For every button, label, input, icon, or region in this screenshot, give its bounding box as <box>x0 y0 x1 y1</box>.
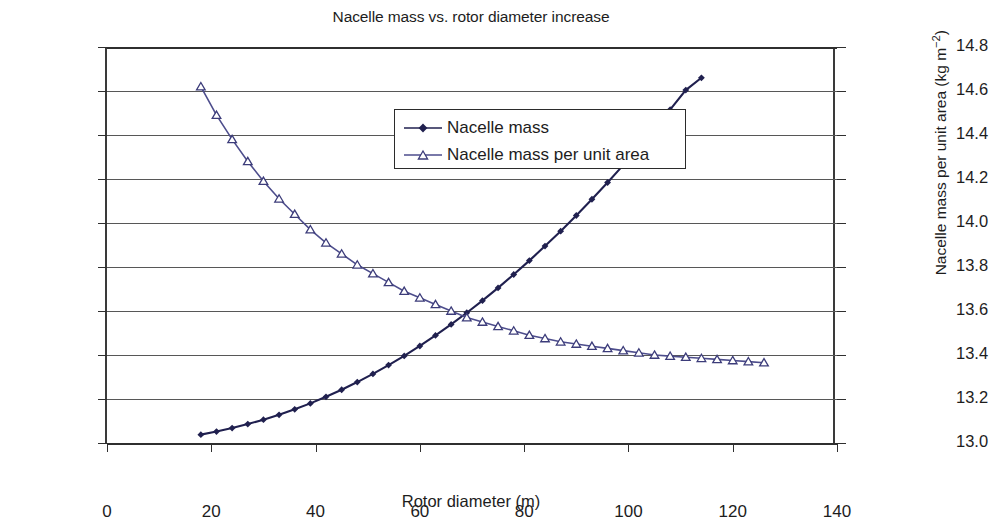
y-axis-right-tick-label: 13.0 <box>956 432 993 451</box>
legend: Nacelle mass Nacelle mass per unit area <box>394 109 686 169</box>
data-point-diamond <box>338 386 345 393</box>
y-axis-left-tick <box>98 399 107 400</box>
data-point-diamond <box>229 425 236 432</box>
x-axis-tick <box>211 443 212 452</box>
y-axis-right-tick-label: 14.6 <box>956 80 993 99</box>
x-axis-tick-label: 40 <box>286 502 346 522</box>
data-point-triangle <box>228 135 237 142</box>
page-title: Nacelle mass vs. rotor diameter increase <box>0 8 942 26</box>
y-axis-left-tick <box>98 311 107 312</box>
y-axis-left-tick <box>98 91 107 92</box>
y-axis-right-tick-label: 13.4 <box>956 344 993 363</box>
x-axis-tick <box>524 443 525 452</box>
y-axis-right-tick-label: 14.0 <box>956 212 993 231</box>
y-axis-right-title-text: Nacelle mass per unit area (kg m <box>932 48 949 275</box>
x-axis-tick-label: 20 <box>181 502 241 522</box>
y-axis-left-tick <box>98 179 107 180</box>
x-axis-tick <box>420 443 421 452</box>
y-axis-right-tick-label: 14.4 <box>956 124 993 143</box>
x-axis-tick-label: 60 <box>390 502 450 522</box>
y-axis-left-tick <box>98 443 107 444</box>
y-axis-right-tick <box>837 355 846 356</box>
y-axis-right-tick-label: 13.6 <box>956 300 993 319</box>
x-axis-tick <box>628 443 629 452</box>
legend-item[interactable]: Nacelle mass per unit area <box>395 141 685 168</box>
y-axis-right-title-exponent: −2 <box>930 35 942 48</box>
y-axis-left-tick <box>98 47 107 48</box>
y-axis-right-tick <box>837 135 846 136</box>
y-axis-right-tick-label: 13.2 <box>956 388 993 407</box>
y-axis-right-tick-label: 14.8 <box>956 36 993 55</box>
data-point-triangle <box>400 287 409 294</box>
x-axis-tick-label: 80 <box>494 502 554 522</box>
data-point-diamond <box>260 416 267 423</box>
data-point-diamond <box>307 400 314 407</box>
x-axis-tick <box>107 443 108 452</box>
x-axis-tick-label: 100 <box>598 502 658 522</box>
data-point-triangle <box>369 270 378 277</box>
y-axis-right-tick-label: 14.2 <box>956 168 993 187</box>
y-axis-right-tick <box>837 91 846 92</box>
x-axis-tick-label: 140 <box>807 502 867 522</box>
y-axis-right-tick <box>837 399 846 400</box>
data-point-diamond <box>323 393 330 400</box>
series-layer <box>107 47 837 443</box>
x-axis-tick <box>837 443 838 452</box>
y-axis-left-tick <box>98 355 107 356</box>
x-axis-tick <box>316 443 317 452</box>
data-point-diamond <box>244 421 251 428</box>
x-axis-tick <box>733 443 734 452</box>
y-axis-right-tick <box>837 47 846 48</box>
data-point-triangle <box>197 83 206 90</box>
y-axis-right-tick <box>837 223 846 224</box>
y-axis-right-tick-label: 13.8 <box>956 256 993 275</box>
data-point-diamond <box>213 428 220 435</box>
y-axis-left-tick <box>98 135 107 136</box>
x-axis-title: Rotor diameter (m) <box>0 492 942 511</box>
y-axis-left-tick <box>98 223 107 224</box>
data-point-triangle <box>384 278 393 285</box>
x-axis-tick-label: 0 <box>77 502 137 522</box>
data-point-triangle <box>212 111 221 118</box>
data-point-diamond <box>291 406 298 413</box>
y-axis-right-tick <box>837 443 846 444</box>
y-axis-left-tick <box>98 267 107 268</box>
legend-item-label: Nacelle mass per unit area <box>447 145 649 165</box>
filled-diamond-icon <box>403 121 443 135</box>
open-triangle-icon <box>403 148 443 162</box>
y-axis-right-title: Nacelle mass per unit area (kg m−2) <box>930 30 950 275</box>
data-point-diamond <box>276 411 283 418</box>
legend-item[interactable]: Nacelle mass <box>395 114 685 141</box>
y-axis-right-tick <box>837 179 846 180</box>
plot-area: 020406080100120140160180 13.013.213.413.… <box>105 47 835 443</box>
data-point-diamond <box>197 431 204 438</box>
y-axis-right-title-tail: ) <box>932 30 949 35</box>
x-axis-tick-label: 120 <box>703 502 763 522</box>
legend-item-label: Nacelle mass <box>447 118 549 138</box>
y-axis-right-tick <box>837 267 846 268</box>
y-axis-right-tick <box>837 311 846 312</box>
gridline <box>107 443 837 445</box>
